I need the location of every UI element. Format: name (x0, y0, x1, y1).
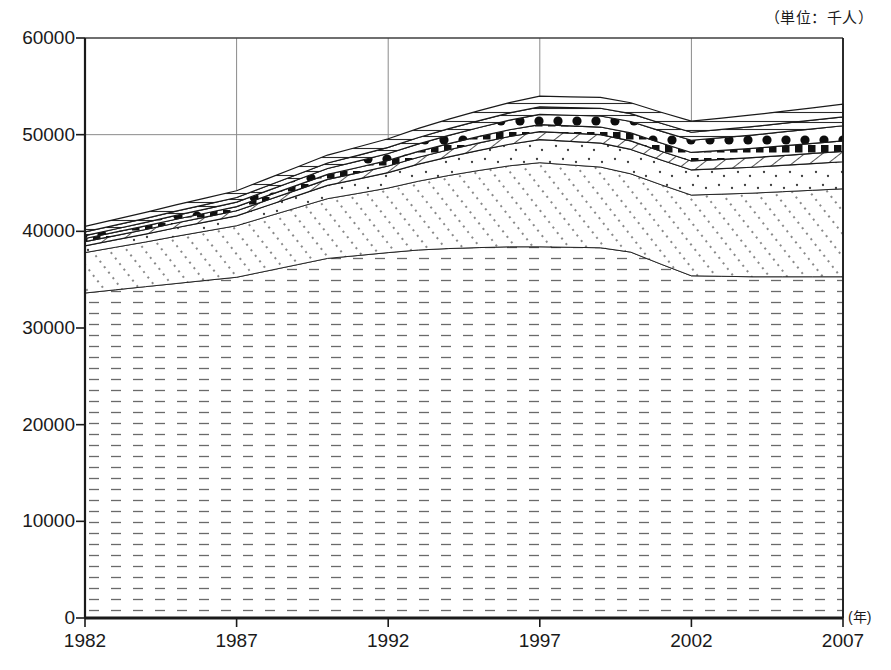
chart-canvas (0, 0, 891, 670)
x-tick-label: 1997 (495, 630, 585, 652)
x-axis-unit-label: (年) (848, 606, 871, 626)
x-tick-label: 2002 (646, 630, 736, 652)
y-tick-label: 30000 (5, 317, 75, 339)
x-tick-label: 1992 (343, 630, 433, 652)
y-tick-label: 50000 (5, 124, 75, 146)
y-tick-label: 40000 (5, 220, 75, 242)
layer-1-horizontal-dash (85, 247, 843, 618)
x-tick-label: 1987 (192, 630, 282, 652)
x-tick-label: 2007 (798, 630, 888, 652)
x-tick-label: 1982 (40, 630, 130, 652)
y-tick-label: 60000 (5, 27, 75, 49)
area-layers (85, 96, 843, 618)
y-tick-label: 10000 (5, 510, 75, 532)
stacked-area-chart: （単位：千人） (0, 0, 891, 670)
y-tick-label: 20000 (5, 414, 75, 436)
y-tick-label: 0 (5, 607, 75, 629)
